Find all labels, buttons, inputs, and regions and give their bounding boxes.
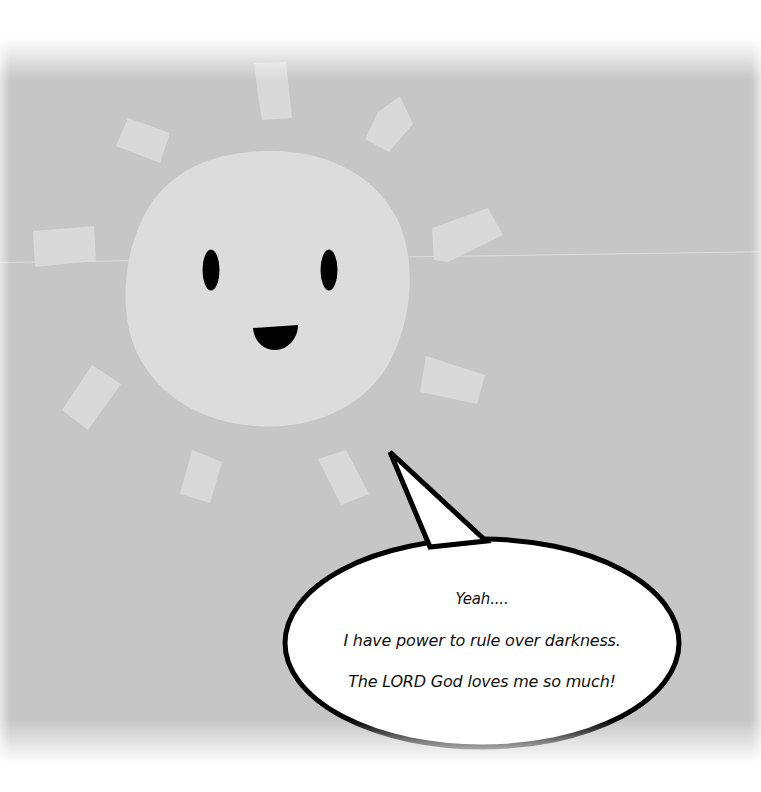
- bubble-line-1: Yeah....: [290, 590, 674, 608]
- ray-upper-left: [116, 118, 170, 163]
- left-eye: [203, 250, 220, 291]
- ray-bottom-right: [318, 450, 369, 505]
- bubble-line-2: I have power to rule over darkness.: [290, 631, 674, 650]
- right-edge-fade: [751, 0, 761, 792]
- ray-right: [432, 208, 503, 262]
- ray-lower-left: [62, 365, 121, 430]
- bottom-white-fade: [0, 720, 761, 792]
- top-white-fade: [0, 0, 761, 80]
- left-edge-fade: [0, 0, 10, 792]
- ray-upper-right: [365, 96, 413, 152]
- sun-disc: [126, 151, 410, 427]
- ray-left: [33, 226, 96, 267]
- bubble-line-3: The LORD God loves me so much!: [290, 672, 674, 691]
- right-eye: [321, 250, 338, 291]
- ray-lower-right: [420, 356, 485, 404]
- ray-bottom-left: [180, 450, 222, 503]
